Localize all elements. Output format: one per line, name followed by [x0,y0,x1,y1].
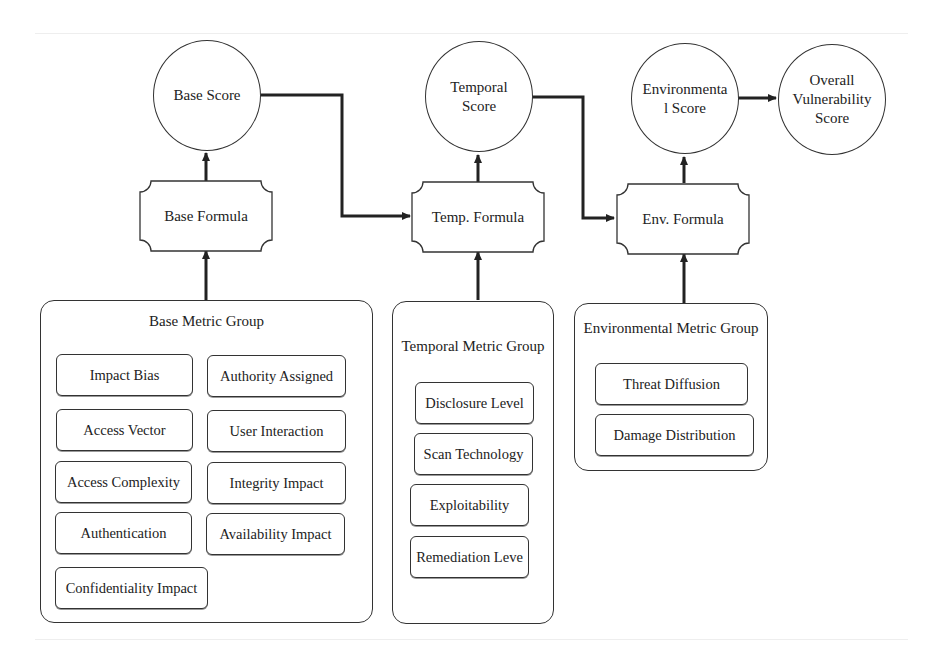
temp-formula-node: Temp. Formula [411,181,545,253]
metric-integrity-impact: Integrity Impact [207,462,346,504]
overall-vulnerability-score-node: Overall Vulnerability Score [778,44,886,155]
base-score-node: Base Score [153,40,261,151]
metric-confidentiality-impact: Confidentiality Impact [55,567,208,609]
temporal-score-node: Temporal Score [425,41,533,152]
environmental-metric-group: Environmental Metric Group Threat Diffus… [574,303,768,471]
metric-scan-technology: Scan Technology [414,433,533,475]
metric-availability-impact: Availability Impact [206,513,345,555]
metric-disclosure-level: Disclosure Level [415,382,534,424]
base-formula-node: Base Formula [139,180,273,252]
temporal-metric-group-title: Temporal Metric Group [393,338,553,355]
metric-impact-bias: Impact Bias [56,354,193,396]
temp-formula-label: Temp. Formula [432,209,524,226]
metric-access-vector: Access Vector [56,409,193,451]
arrow-base-score-to-temp-formula [261,95,410,216]
environmental-score-node: Environmenta l Score [631,43,739,154]
base-formula-label: Base Formula [164,208,248,225]
temporal-metric-group: Temporal Metric Group Disclosure Level S… [392,301,554,624]
metric-access-complexity: Access Complexity [55,461,192,503]
metric-remediation-level: Remediation Leve [410,536,529,578]
base-metric-group: Base Metric Group Impact Bias Authority … [40,300,373,623]
metric-threat-diffusion: Threat Diffusion [595,363,748,405]
env-formula-label: Env. Formula [642,211,724,228]
metric-exploitability: Exploitability [410,484,529,526]
metric-authentication: Authentication [55,512,192,554]
base-metric-group-title: Base Metric Group [41,313,372,330]
env-formula-node: Env. Formula [616,183,750,255]
environmental-metric-group-title: Environmental Metric Group [575,320,767,337]
metric-damage-distribution: Damage Distribution [595,414,754,456]
metric-user-interaction: User Interaction [207,410,346,452]
metric-authority-assigned: Authority Assigned [207,355,346,397]
